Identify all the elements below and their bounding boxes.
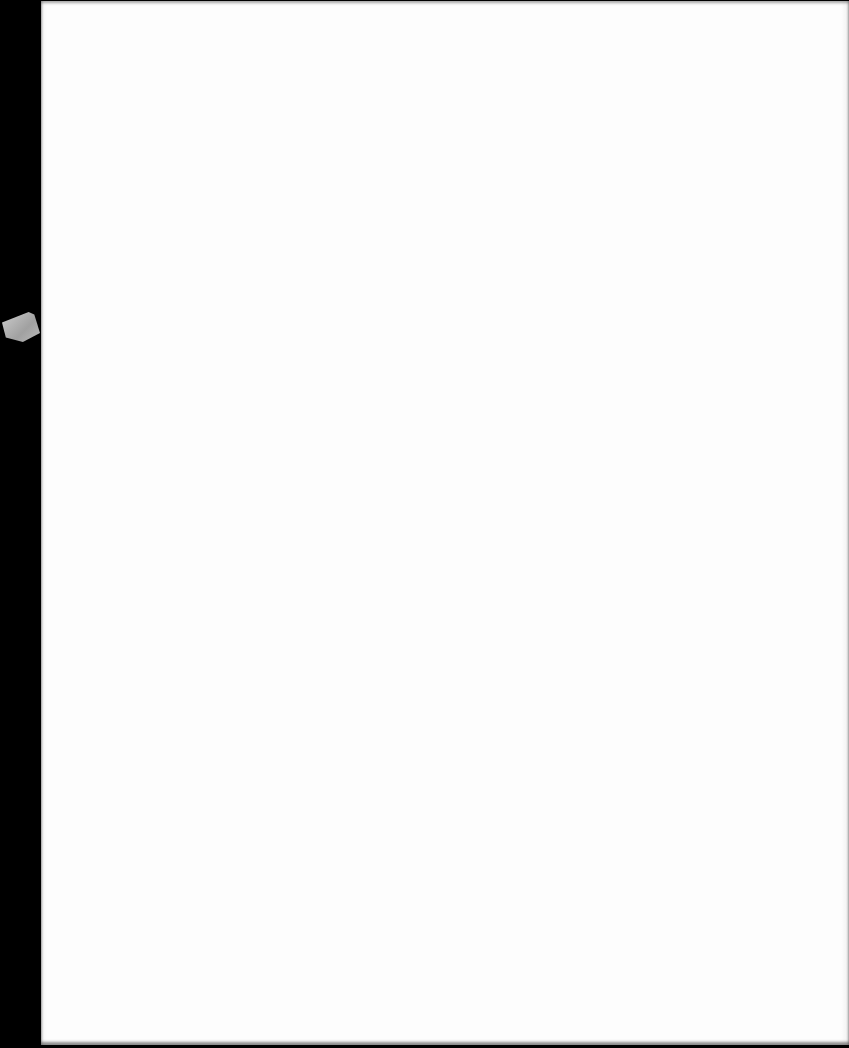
scanned-image (0, 0, 849, 1048)
tape-fragment (2, 312, 40, 342)
blank-page (41, 1, 849, 1045)
